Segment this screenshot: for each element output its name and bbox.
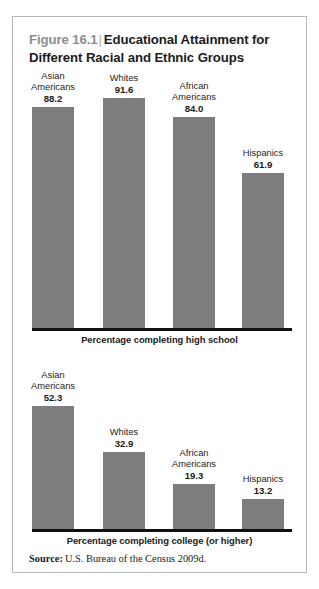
axis-caption-high-school: Percentage completing high school <box>13 334 306 345</box>
bar-group: Asian Americans 52.3 <box>32 355 74 530</box>
source-text: U.S. Bureau of the Census 2009d. <box>63 553 206 564</box>
bar <box>242 173 284 329</box>
bar-label-block: Asian Americans 88.2 <box>19 71 87 105</box>
bar-category-line: Americans <box>160 459 228 470</box>
bar <box>242 499 284 530</box>
bar-value-label: 52.3 <box>19 392 87 405</box>
bar-group: Whites 32.9 <box>103 355 145 530</box>
bar-label-block: Whites 32.9 <box>90 427 158 450</box>
bar-label-block: African Americans 19.3 <box>160 448 228 482</box>
figure-title: Figure 16.1|Educational Attainment for D… <box>29 31 293 67</box>
plot-area-1: Asian Americans 88.2 Whites 91.6 African… <box>32 79 292 329</box>
chart-college: Asian Americans 52.3 Whites 32.9 African… <box>13 355 306 530</box>
bar <box>32 406 74 530</box>
bar <box>173 117 215 329</box>
bar-category-line: African <box>160 448 228 459</box>
bar-group: African Americans 19.3 <box>173 355 215 530</box>
bar-value-label: 61.9 <box>229 159 297 172</box>
bar-value-label: 88.2 <box>19 93 87 106</box>
bar-label-block: African Americans 84.0 <box>160 81 228 115</box>
bar-category-line: Whites <box>90 73 158 84</box>
source-line: Source:U.S. Bureau of the Census 2009d. <box>29 553 206 564</box>
bar-group: Hispanics 13.2 <box>242 355 284 530</box>
bar-label-block: Hispanics 61.9 <box>229 148 297 171</box>
bar-label-block: Hispanics 13.2 <box>229 474 297 497</box>
bar-group: Whites 91.6 <box>103 79 145 329</box>
bar-category-line: Americans <box>160 92 228 103</box>
bar-label-block: Asian Americans 52.3 <box>19 370 87 404</box>
figure-box: Figure 16.1|Educational Attainment for D… <box>12 16 307 573</box>
bar-category-line: Hispanics <box>229 474 297 485</box>
bar-category-line: Hispanics <box>229 148 297 159</box>
bar-category-line: Asian <box>19 370 87 381</box>
source-label: Source: <box>29 553 63 564</box>
bar-category-line: Whites <box>90 427 158 438</box>
bar <box>103 98 145 329</box>
bar-value-label: 32.9 <box>90 438 158 451</box>
bar-value-label: 19.3 <box>160 470 228 483</box>
bar-category-line: Americans <box>19 381 87 392</box>
bar-label-block: Whites 91.6 <box>90 73 158 96</box>
bar-value-label: 84.0 <box>160 103 228 116</box>
figure-number: Figure 16.1 <box>29 32 98 47</box>
axis-line-college <box>32 529 292 532</box>
bar-group: Asian Americans 88.2 <box>32 79 74 329</box>
bar <box>103 452 145 530</box>
bar-value-label: 91.6 <box>90 84 158 97</box>
bar <box>173 484 215 530</box>
bar-group: African Americans 84.0 <box>173 79 215 329</box>
bar-category-line: Americans <box>19 82 87 93</box>
axis-caption-college: Percentage completing college (or higher… <box>13 535 306 546</box>
bar-category-line: Asian <box>19 71 87 82</box>
axis-line-high-school <box>32 328 292 331</box>
plot-area-2: Asian Americans 52.3 Whites 32.9 African… <box>32 355 292 530</box>
bar-group: Hispanics 61.9 <box>242 79 284 329</box>
bar-value-label: 13.2 <box>229 485 297 498</box>
chart-high-school: Asian Americans 88.2 Whites 91.6 African… <box>13 79 306 329</box>
bar <box>32 107 74 329</box>
bar-category-line: African <box>160 81 228 92</box>
